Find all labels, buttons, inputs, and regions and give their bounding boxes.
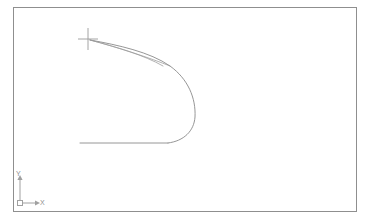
drawing-viewport-frame[interactable] <box>13 7 357 212</box>
ucs-x-axis-label: X <box>40 199 45 207</box>
cad-application-window: Y X <box>0 0 372 223</box>
ucs-y-axis-label: Y <box>16 170 21 178</box>
